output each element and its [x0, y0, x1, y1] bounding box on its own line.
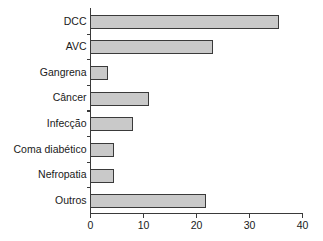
bar-chart: DCCAVCGangrenaCâncerInfecçãoComa diabéti… [0, 0, 323, 241]
bar [91, 93, 149, 106]
category-label: Nefropatia [38, 168, 87, 180]
bars-group [91, 16, 279, 208]
bar [91, 67, 108, 80]
bar [91, 118, 133, 131]
category-label: Coma diabético [14, 143, 87, 155]
category-label: Infecção [47, 117, 87, 129]
x-tick-label: 10 [138, 219, 150, 231]
category-label: Outros [55, 194, 87, 206]
x-tick-labels-group: 010203040 [88, 219, 309, 231]
bar [91, 144, 114, 157]
category-label: Gangrena [40, 66, 87, 78]
bar [91, 41, 213, 54]
x-tick-label: 20 [191, 219, 203, 231]
x-tick-label: 40 [297, 219, 309, 231]
x-tick-label: 30 [244, 219, 256, 231]
x-tick-label: 0 [88, 219, 94, 231]
category-label: Câncer [53, 91, 87, 103]
bar [91, 170, 114, 183]
axes-group [87, 8, 303, 218]
category-labels-group: DCCAVCGangrenaCâncerInfecçãoComa diabéti… [14, 15, 87, 206]
category-label: DCC [64, 15, 87, 27]
bar [91, 16, 279, 29]
bar [91, 195, 206, 208]
chart-canvas: DCCAVCGangrenaCâncerInfecçãoComa diabéti… [0, 0, 323, 241]
category-label: AVC [66, 40, 87, 52]
